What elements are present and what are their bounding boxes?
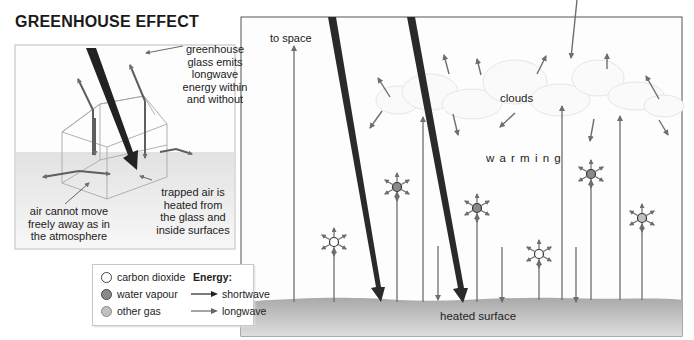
label-line: the glass and: [148, 211, 238, 224]
label-line: and without: [180, 93, 250, 106]
to-space-label: to space: [270, 32, 312, 45]
legend-energy-title: Energy:: [193, 271, 232, 283]
label-line: glass emits: [180, 56, 250, 69]
label-line: air cannot move: [24, 205, 114, 218]
carbon-dioxide-icon: [101, 272, 112, 283]
longwave-arrow-icon: [191, 307, 219, 315]
label-line: greenhouse: [180, 43, 250, 56]
label-line: heated from: [148, 199, 238, 212]
legend-water: water vapour: [117, 288, 178, 300]
label-line: the atmosphere: [24, 230, 114, 243]
label-line: trapped air is: [148, 186, 238, 199]
legend-co2: carbon dioxide: [117, 271, 185, 283]
glass-emits-label: greenhouse glass emits longwave energy w…: [180, 43, 250, 106]
water-vapour-icon: [101, 289, 112, 300]
heated-surface-label: heated surface: [440, 310, 516, 323]
label-line: freely away as in: [24, 218, 114, 231]
label-line: inside surfaces: [148, 224, 238, 237]
trapped-air-label: trapped air is heated from the glass and…: [148, 186, 238, 236]
clouds-label: clouds: [500, 92, 533, 105]
shortwave-arrow-icon: [191, 290, 219, 298]
molecule-dot: [393, 183, 402, 192]
other-gas-icon: [101, 306, 112, 317]
warming-label: w a r m i n g: [486, 152, 562, 165]
air-cannot-move-label: air cannot move freely away as in the at…: [24, 205, 114, 243]
legend: carbon dioxide water vapour other gas En…: [92, 264, 254, 326]
molecule-dot: [473, 204, 482, 213]
molecule-dot: [330, 238, 339, 247]
molecule-dot: [587, 170, 596, 179]
legend-longwave: longwave: [222, 305, 266, 317]
label-line: longwave: [180, 68, 250, 81]
molecule-dot: [638, 214, 647, 223]
legend-other: other gas: [117, 305, 161, 317]
molecule-dot: [535, 250, 544, 259]
legend-shortwave: shortwave: [222, 288, 270, 300]
label-line: energy within: [180, 81, 250, 94]
